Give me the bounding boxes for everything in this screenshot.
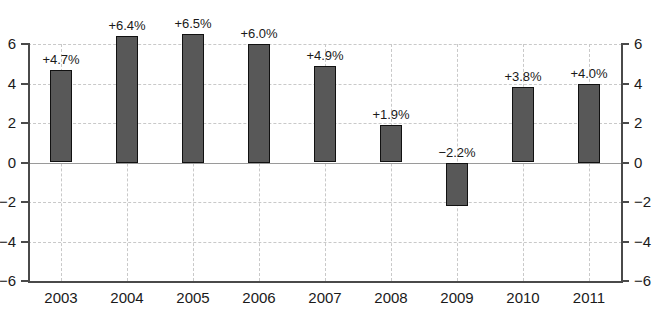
bar [248,44,270,163]
bar [182,34,204,162]
bar-value-label: +4.9% [285,49,365,62]
y-axis-label-right: −6 [634,273,651,288]
y-axis-tick-left [21,83,28,85]
bar [50,70,72,163]
y-axis-label-left: −4 [0,234,16,249]
bar-value-label: +4.7% [21,53,101,66]
x-axis-line [28,281,623,283]
y-axis-label-right: 6 [634,36,642,51]
bar [446,163,468,206]
y-axis-label-left: −6 [0,273,16,288]
y-axis-label-left: 6 [8,36,16,51]
y-axis-label-right: 2 [634,115,642,130]
y-axis-label-left: 4 [8,76,16,91]
bar-value-label: +1.9% [351,108,431,121]
bar [512,87,534,162]
y-axis-tick-left [21,43,28,45]
y-axis-tick-right [622,43,629,45]
y-axis-tick-left [21,241,28,243]
bar [578,84,600,163]
y-axis-label-left: −2 [0,194,16,209]
y-axis-tick-left [21,280,28,282]
y-axis-left-line [28,43,30,282]
bar-value-label: +6.0% [219,27,299,40]
bar-value-label: +4.0% [549,67,629,80]
y-axis-tick-right [622,83,629,85]
y-axis-tick-right [622,280,629,282]
bar-value-label: −2.2% [417,146,497,159]
x-axis-category-label: 2011 [549,290,629,305]
y-axis-label-right: 4 [634,76,642,91]
bar-chart: +4.7%+6.4%+6.5%+6.0%+4.9%+1.9%−2.2%+3.8%… [0,0,664,318]
bar [116,36,138,162]
y-axis-tick-left [21,162,28,164]
y-axis-label-right: −2 [634,194,651,209]
y-axis-tick-right [622,241,629,243]
y-axis-tick-right [622,122,629,124]
plot-area: +4.7%+6.4%+6.5%+6.0%+4.9%+1.9%−2.2%+3.8%… [28,44,622,281]
y-axis-label-left: 0 [8,155,16,170]
y-axis-label-right: −4 [634,234,651,249]
y-axis-tick-left [21,201,28,203]
y-axis-tick-right [622,201,629,203]
y-axis-tick-right [622,162,629,164]
zero-baseline [28,163,622,164]
bar [380,125,402,163]
y-axis-tick-left [21,122,28,124]
y-axis-label-left: 2 [8,115,16,130]
bar [314,66,336,163]
y-axis-label-right: 0 [634,155,642,170]
